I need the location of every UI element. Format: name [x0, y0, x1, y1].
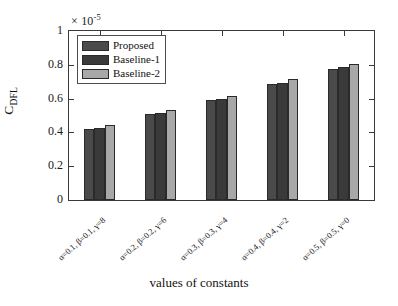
- bar: [288, 79, 298, 200]
- y-axis-tick-mark: [69, 65, 74, 66]
- bar: [105, 125, 115, 200]
- legend-label-baseline-2: Baseline-2: [113, 68, 160, 79]
- y-axis-tick-mark: [369, 65, 374, 66]
- x-axis-tick-mark: [344, 31, 345, 36]
- y-axis-label-subscript: DFL: [9, 87, 19, 106]
- legend-swatch-baseline-2: [82, 69, 109, 79]
- x-axis-tick-mark: [222, 31, 223, 36]
- plot-area: Proposed Baseline-1 Baseline-2: [68, 30, 375, 201]
- legend-label-proposed: Proposed: [113, 40, 154, 51]
- x-axis-tick-mark: [344, 195, 345, 200]
- x-axis-tick-mark: [100, 195, 101, 200]
- legend-swatch-baseline-1: [82, 55, 109, 65]
- x-axis-tick-label: α=0.1, β=0.1, γ=8: [56, 215, 107, 263]
- bar: [349, 64, 359, 200]
- y-axis-tick-mark: [369, 132, 374, 133]
- legend-item-baseline-2: Baseline-2: [82, 67, 160, 80]
- x-axis-tick-label: α=0.2, β=0.2, γ=6: [117, 215, 168, 263]
- y-axis-tick-mark: [69, 166, 74, 167]
- y-axis-exponent-power: -5: [94, 12, 101, 22]
- y-axis-tick-mark: [369, 166, 374, 167]
- bar: [338, 67, 348, 200]
- legend: Proposed Baseline-1 Baseline-2: [77, 35, 166, 84]
- x-axis-tick-label: α=0.3, β=0.3, γ=4: [178, 215, 229, 263]
- x-axis-tick-mark: [222, 195, 223, 200]
- y-axis-label: CDFL: [1, 87, 19, 115]
- y-axis-tick-label: 0: [30, 192, 63, 207]
- y-axis-tick-label: 1: [30, 23, 63, 38]
- x-axis-label: values of constants: [0, 275, 398, 291]
- y-axis-tick-mark: [69, 99, 74, 100]
- y-axis-tick-label: 0.8: [30, 56, 63, 71]
- bar: [94, 128, 104, 200]
- legend-swatch-proposed: [82, 41, 109, 51]
- figure-root: × 10-5 CDFL 00.20.40.60.81 Proposed Base…: [0, 0, 398, 306]
- y-axis-label-base: C: [1, 106, 16, 115]
- x-axis-tick-mark: [161, 195, 162, 200]
- bar: [155, 113, 165, 200]
- bar: [328, 69, 338, 200]
- x-axis-tick-mark: [283, 31, 284, 36]
- y-axis-exponent: × 10-5: [71, 12, 101, 29]
- x-axis-tick-label: α=0.4, β=0.4, γ=2: [239, 215, 290, 263]
- y-axis-tick-mark: [69, 132, 74, 133]
- y-axis-tick-label: 0.2: [30, 158, 63, 173]
- bar: [84, 129, 94, 200]
- y-axis-tick-label: 0.6: [30, 90, 63, 105]
- x-axis-tick-mark: [283, 195, 284, 200]
- legend-item-baseline-1: Baseline-1: [82, 53, 160, 66]
- legend-label-baseline-1: Baseline-1: [113, 54, 160, 65]
- bar: [166, 110, 176, 200]
- x-axis-tick-label: α=0.5, β=0.5, γ=0: [300, 215, 351, 263]
- bar: [145, 114, 155, 200]
- y-axis-tick-label: 0.4: [30, 124, 63, 139]
- y-axis-tick-mark: [369, 99, 374, 100]
- bar: [216, 99, 226, 200]
- bar: [206, 100, 216, 200]
- bar: [267, 84, 277, 200]
- y-axis-exponent-base: × 10: [71, 14, 94, 28]
- bar: [277, 83, 287, 200]
- bar: [227, 96, 237, 200]
- legend-item-proposed: Proposed: [82, 39, 160, 52]
